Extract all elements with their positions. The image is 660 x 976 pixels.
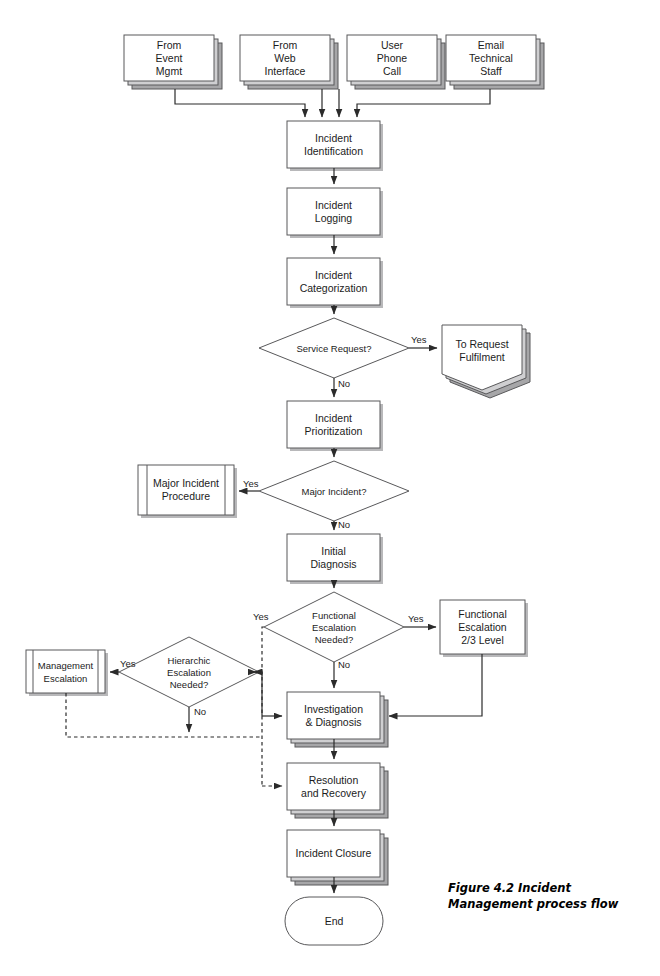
shape-incident-closure [287,830,388,885]
flowchart-diagram: From Event Mgmt From Web Interface User … [0,0,660,976]
edge-label-functional-escalation-yes: Yes [408,613,424,624]
source-card-from-event-mgmt [124,35,222,89]
edge-management-escalation-feedback-dashed [66,693,262,737]
figure-caption-line-2: Management process flow [448,896,648,912]
edge-label-major-incident-no: No [338,519,350,530]
shape-initial-diagnosis [287,534,383,584]
edge-label-service-request-yes: Yes [411,334,427,345]
source-card-from-web-interface [240,35,338,89]
source-card-email-technical-staff [446,35,544,89]
figure-caption: Figure 4.2 Incident Management process f… [448,880,648,912]
flowchart-canvas [0,0,660,976]
shape-decision-functional-escalation-needed [264,592,404,662]
shape-incident-logging [287,188,383,238]
figure-caption-line-1: Figure 4.2 Incident [448,880,648,896]
shape-functional-escalation-2-3-level [440,600,528,657]
shape-decision-major-incident [259,461,409,521]
shape-decision-service-request [259,318,409,378]
shape-to-request-fulfilment [442,325,530,398]
shape-major-incident-procedure [138,465,237,518]
shape-resolution-and-recovery [287,763,388,818]
shape-investigation-diagnosis [287,692,388,747]
edge-source1-to-identification [175,89,305,117]
source-card-user-phone-call [347,35,445,89]
edge-functional-escalation-to-investigation [389,654,482,716]
edge-label-hierarchic-escalation-no: No [194,706,206,717]
edge-label-major-incident-yes: Yes [243,478,259,489]
shape-decision-hierarchic-escalation-needed [119,637,259,707]
edge-source4-to-identification [357,89,490,117]
edge-label-hierarchic-escalation-yes: Yes [120,658,136,669]
shape-management-escalation [26,650,108,696]
shape-incident-categorization [287,258,383,308]
edge-label-functional-escalation-loop-yes: Yes [253,611,269,622]
edge-label-service-request-no: No [338,378,350,389]
shape-incident-identification [287,121,383,171]
edge-functional-escalation-loop-dashed [262,627,264,786]
edge-label-functional-escalation-no: No [338,659,350,670]
shape-incident-prioritization [287,401,383,451]
shape-end-terminator [285,897,383,945]
